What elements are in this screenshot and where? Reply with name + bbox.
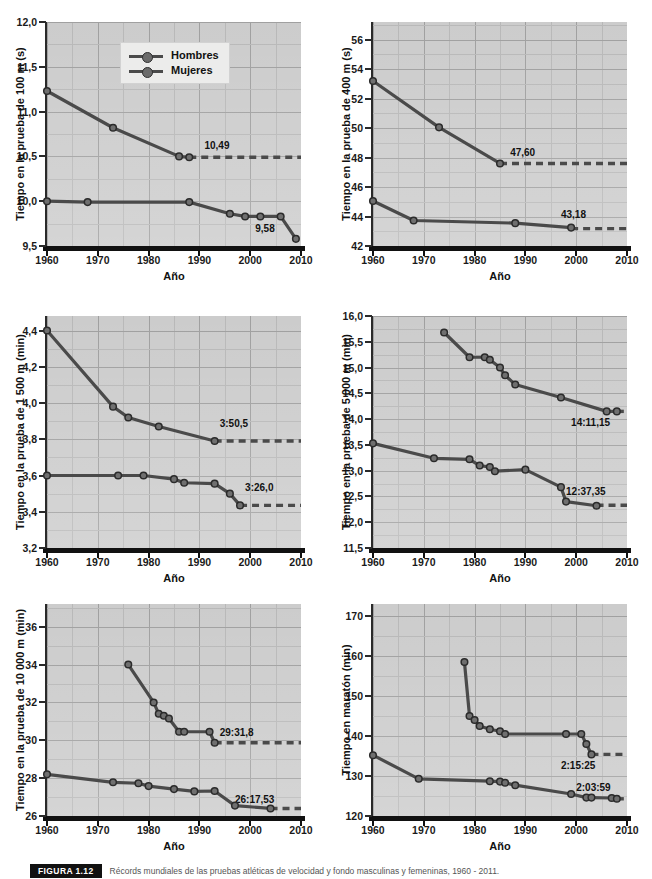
data-point: [176, 153, 183, 160]
data-point: [558, 394, 565, 401]
data-point: [471, 717, 478, 724]
data-point: [44, 88, 51, 95]
data-point: [370, 198, 377, 205]
data-point: [232, 802, 239, 809]
data-point: [476, 723, 483, 730]
legend-label: Mujeres: [171, 65, 213, 76]
series-line: [47, 331, 215, 442]
data-point: [277, 213, 284, 220]
data-point: [370, 440, 377, 447]
series-line: [373, 81, 500, 164]
legend-marker-icon: [129, 66, 163, 76]
data-point: [502, 731, 509, 738]
data-point: [614, 408, 621, 415]
data-point: [44, 198, 51, 205]
series-mujeres: [44, 327, 301, 444]
data-point: [563, 731, 570, 738]
data-point: [492, 468, 499, 475]
series-hombres: [44, 771, 301, 812]
data-point: [186, 154, 193, 161]
data-point: [44, 771, 51, 778]
series-hombres: [44, 198, 300, 242]
data-point: [237, 502, 244, 509]
data-point: [603, 408, 610, 415]
data-point: [115, 472, 122, 479]
data-point: [370, 78, 377, 85]
data-point: [125, 414, 132, 421]
data-point: [614, 796, 621, 803]
data-point: [502, 372, 509, 379]
data-point: [171, 476, 178, 483]
series-line: [373, 201, 571, 228]
series-mujeres: [461, 659, 627, 758]
data-point: [568, 791, 575, 798]
data-point: [227, 490, 234, 497]
series-hombres: [370, 752, 627, 802]
series-layer: [326, 0, 652, 300]
data-point: [191, 788, 198, 795]
series-line: [464, 662, 591, 754]
chart-panel-400m: 4244464850525456196019701980199020002010…: [326, 0, 652, 290]
series-hombres: [370, 198, 627, 231]
data-point: [431, 455, 438, 462]
figure-caption-tag: FIGURA 1.12: [30, 864, 102, 878]
data-point: [370, 752, 377, 759]
figure-caption: FIGURA 1.12 Récords mundiales de las pru…: [0, 863, 652, 879]
data-point: [512, 381, 519, 388]
data-point: [487, 357, 494, 364]
data-point: [487, 778, 494, 785]
series-line: [47, 476, 240, 506]
figure-caption-text: Récords mundiales de las pruebas atlétic…: [110, 866, 500, 876]
legend-item-hombres[interactable]: Hombres: [129, 48, 219, 63]
data-point: [84, 199, 91, 206]
legend-item-mujeres[interactable]: Mujeres: [129, 63, 219, 78]
data-point: [578, 731, 585, 738]
data-point: [110, 779, 117, 786]
chart-panel-1500m: 3,23,43,63,84,04,24,41960197019801990200…: [0, 290, 326, 590]
data-point: [227, 210, 234, 217]
series-line: [373, 443, 597, 505]
data-point: [476, 462, 483, 469]
data-point: [512, 220, 519, 227]
series-hombres: [44, 472, 301, 509]
data-point: [110, 124, 117, 131]
data-point: [211, 739, 218, 746]
data-point: [242, 213, 249, 220]
series-line: [373, 755, 617, 799]
data-point: [145, 783, 152, 790]
data-point: [181, 479, 188, 486]
data-point: [436, 124, 443, 131]
data-point: [211, 788, 218, 795]
data-point: [502, 780, 509, 787]
data-point: [487, 726, 494, 733]
data-point: [466, 456, 473, 463]
data-point: [211, 438, 218, 445]
series-mujeres: [370, 78, 627, 167]
data-point: [461, 659, 468, 666]
series-line: [128, 665, 214, 743]
charts-grid: 9,510,010,511,011,512,019601970198019902…: [0, 0, 652, 860]
series-mujeres: [125, 661, 301, 746]
data-point: [466, 354, 473, 361]
data-point: [211, 480, 218, 487]
series-layer: [0, 290, 326, 590]
data-point: [415, 776, 422, 783]
data-point: [44, 472, 51, 479]
data-point: [166, 715, 173, 722]
series-layer: [0, 590, 326, 879]
data-point: [563, 498, 570, 505]
data-point: [267, 805, 274, 812]
data-point: [181, 728, 188, 735]
data-point: [293, 236, 300, 243]
legend: HombresMujeres: [120, 42, 230, 84]
chart-panel-10000m: 262830323436196019701980199020002010Tiem…: [0, 590, 326, 860]
series-line: [444, 332, 617, 411]
data-point: [171, 786, 178, 793]
series-hombres: [370, 440, 627, 509]
series-line: [47, 91, 189, 157]
data-point: [135, 780, 142, 787]
data-point: [522, 466, 529, 473]
data-point: [588, 794, 595, 801]
data-point: [257, 213, 264, 220]
data-point: [150, 699, 157, 706]
